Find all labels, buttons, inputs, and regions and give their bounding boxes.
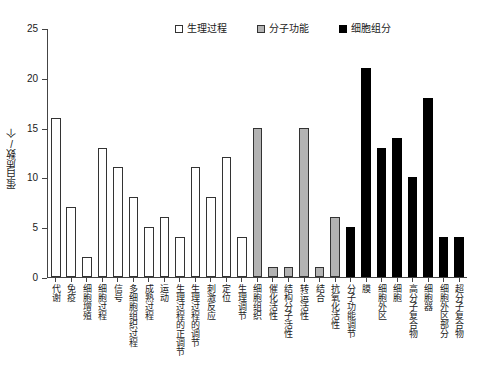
bar-cc-19[interactable] [346,227,356,277]
x-tick-mark-25 [443,278,444,282]
x-tick-slot [327,278,343,282]
x-label-slot: 代谢 [48,284,64,376]
x-axis-label-19: 分子功能调节 [346,284,355,338]
bar-bp-0[interactable] [51,118,61,277]
x-tick-slot [234,278,250,282]
y-tick-25: 25 [42,29,47,30]
x-axis-label-25: 细胞外区部分 [439,284,448,338]
y-tick-0: 0 [42,278,47,279]
bar-mf-15[interactable] [284,267,294,277]
y-tick-label-5: 5 [32,222,38,233]
x-axis-label-17: 结合 [315,284,324,302]
x-label-slot: 催化活性 [265,284,281,376]
x-axis-label-13: 细胞组织 [253,284,262,320]
x-tick-slot [374,278,390,282]
x-tick-slot [141,278,157,282]
bar-slot [312,29,328,277]
bar-bp-9[interactable] [191,167,201,277]
x-label-slot: 生理调节 [234,284,250,376]
bar-bp-8[interactable] [175,237,185,277]
bar-slot [296,29,312,277]
x-tick-slot [126,278,142,282]
bar-cc-22[interactable] [392,138,402,277]
x-axis-label-1: 免疫 [67,284,76,302]
x-tick-slot [219,278,235,282]
x-tick-slot [188,278,204,282]
x-tick-mark-23 [412,278,413,282]
bar-cc-21[interactable] [377,148,387,277]
bar-bp-5[interactable] [129,197,139,277]
bar-bp-2[interactable] [82,257,92,277]
x-label-slot: 高分子复合物 [405,284,421,376]
x-tick-mark-12 [241,278,242,282]
bar-bp-4[interactable] [113,167,123,277]
bar-bp-3[interactable] [98,148,108,277]
bar-cc-25[interactable] [439,237,449,277]
y-tick-20: 20 [42,79,47,80]
bar-slot [389,29,405,277]
x-label-slot: 细胞外区 [374,284,390,376]
x-axis-label-8: 生理过程的正调节 [175,284,184,356]
x-label-slot: 结合 [312,284,328,376]
y-tick-label-0: 0 [32,272,38,283]
x-label-slot: 刺激反应 [203,284,219,376]
bar-slot [281,29,297,277]
bar-bp-7[interactable] [160,217,170,277]
bar-bp-12[interactable] [237,237,247,277]
bar-slot [172,29,188,277]
bar-bp-10[interactable] [206,197,216,277]
x-label-slot: 分子功能调节 [343,284,359,376]
x-tick-slot [420,278,436,282]
bar-mf-18[interactable] [330,217,340,277]
x-tick-slot [312,278,328,282]
bar-slot [110,29,126,277]
bar-mf-13[interactable] [253,128,263,277]
bar-cc-23[interactable] [408,177,418,277]
x-label-slot: 细胞外区部分 [436,284,452,376]
y-tick-15: 15 [42,129,47,130]
x-axis-label-23: 高分子复合物 [408,284,417,338]
x-tick-mark-9 [195,278,196,282]
x-tick-slot [203,278,219,282]
bar-bp-11[interactable] [222,157,232,277]
x-tick-mark-14 [272,278,273,282]
x-tick-slot [95,278,111,282]
x-tick-mark-0 [55,278,56,282]
bar-bp-1[interactable] [66,207,76,277]
bar-slot [265,29,281,277]
x-axis-label-9: 生理过程的调节 [191,284,200,347]
y-tick-label-10: 10 [27,172,38,183]
x-tick-mark-21 [381,278,382,282]
x-label-slot: 超分子复合物 [451,284,467,376]
bar-cc-26[interactable] [454,237,464,277]
x-label-slot: 细胞增殖 [79,284,95,376]
bar-slot [250,29,266,277]
x-label-slot: 抗氧化活性 [327,284,343,376]
x-tick-slot [250,278,266,282]
bar-slot [95,29,111,277]
bar-slot [405,29,421,277]
x-tick-mark-7 [164,278,165,282]
x-axis-label-18: 抗氧化活性 [331,284,340,329]
x-tick-slot [296,278,312,282]
bar-slot [141,29,157,277]
bar-cc-20[interactable] [361,68,371,277]
bar-bp-6[interactable] [144,227,154,277]
bar-slot [64,29,80,277]
x-tick-mark-19 [350,278,351,282]
bar-cc-24[interactable] [423,98,433,277]
x-tick-slot [405,278,421,282]
bar-mf-16[interactable] [299,128,309,277]
x-axis-label-21: 细胞外区 [377,284,386,320]
x-tick-slot [358,278,374,282]
x-axis-label-11: 定位 [222,284,231,302]
x-label-slot: 生理过程的调节 [188,284,204,376]
bar-slot [203,29,219,277]
x-tick-slot [172,278,188,282]
x-tick-slot [436,278,452,282]
bar-mf-14[interactable] [268,267,278,277]
bar-mf-17[interactable] [315,267,325,277]
x-label-slot: 膜 [358,284,374,376]
bar-slot [234,29,250,277]
y-tick-5: 5 [42,228,47,229]
